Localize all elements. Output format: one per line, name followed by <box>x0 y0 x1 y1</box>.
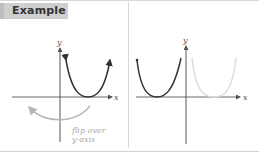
left-graph: x y flip over y-axis <box>12 38 119 144</box>
reflected-parabola <box>137 58 181 97</box>
right-graph: x y <box>136 36 248 144</box>
left-x-label: x <box>114 93 119 102</box>
annotation-line1: flip over <box>71 126 107 135</box>
left-y-label: y <box>56 38 62 47</box>
annotation-line2: y-axis <box>71 135 95 144</box>
right-x-label: x <box>243 93 248 102</box>
right-y-label: y <box>182 36 188 45</box>
original-parabola-faded <box>192 58 236 97</box>
graphs: x y flip over y-axis x y <box>0 0 260 157</box>
left-parabola <box>66 60 110 97</box>
